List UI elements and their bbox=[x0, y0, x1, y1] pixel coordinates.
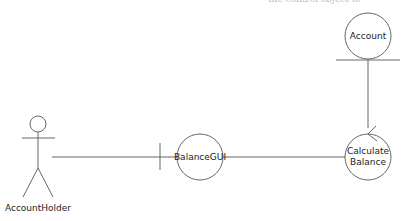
actor-label: AccountHolder bbox=[5, 203, 71, 213]
diagram-canvas: AccountHolder BalanceGUI Calculate Balan… bbox=[0, 0, 409, 221]
entity-label: Account bbox=[350, 31, 387, 41]
boundary-label: BalanceGUI bbox=[174, 152, 226, 162]
control-label-line1: Calculate bbox=[347, 146, 389, 156]
actor-account-holder[interactable] bbox=[22, 116, 55, 197]
control-label-line2: Balance bbox=[350, 157, 386, 167]
